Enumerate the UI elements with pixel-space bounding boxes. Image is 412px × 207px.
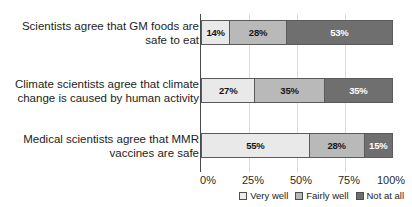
bar-row-gm-foods: 14% 28% 53% bbox=[201, 20, 393, 45]
bar-segment-very-well: 27% bbox=[201, 78, 254, 103]
legend-item-very-well: Very well bbox=[239, 190, 288, 201]
legend-label: Not at all bbox=[367, 190, 405, 201]
category-label-mmr: Medical scientists agree that MMR vaccin… bbox=[3, 133, 199, 160]
plot-area: 14% 28% 53% 27% 35% 35% 55% 28% 15% bbox=[200, 14, 393, 172]
bar-segment-not-at-all: 15% bbox=[364, 133, 393, 158]
legend-item-fairly-well: Fairly well bbox=[295, 190, 348, 201]
x-tick-100: 100% bbox=[377, 174, 405, 186]
legend-label: Very well bbox=[250, 190, 288, 201]
x-tick-75: 75% bbox=[338, 174, 360, 186]
x-axis: 0% 25% 50% 75% 100% bbox=[200, 174, 393, 188]
legend-swatch-icon bbox=[239, 192, 247, 200]
bar-row-climate: 27% 35% 35% bbox=[201, 78, 393, 103]
legend-label: Fairly well bbox=[306, 190, 348, 201]
bar-segment-fairly-well: 35% bbox=[254, 78, 323, 103]
bar-segment-very-well: 14% bbox=[201, 20, 229, 45]
bar-segment-very-well: 55% bbox=[201, 133, 309, 158]
chart-legend: Very well Fairly well Not at all bbox=[0, 190, 404, 201]
stacked-bar-chart: Scientists agree that GM foods are safe … bbox=[0, 0, 412, 207]
x-tick-50: 50% bbox=[290, 174, 312, 186]
bar-segment-not-at-all: 53% bbox=[286, 20, 393, 45]
bar-segment-fairly-well: 28% bbox=[309, 133, 364, 158]
legend-swatch-icon bbox=[295, 192, 303, 200]
legend-swatch-icon bbox=[356, 192, 364, 200]
bar-row-mmr: 55% 28% 15% bbox=[201, 133, 393, 158]
bar-segment-fairly-well: 28% bbox=[229, 20, 286, 45]
category-label-gm-foods: Scientists agree that GM foods are safe … bbox=[3, 20, 199, 47]
category-label-climate: Climate scientists agree that climate ch… bbox=[3, 78, 199, 105]
x-tick-0: 0% bbox=[200, 174, 216, 186]
x-tick-25: 25% bbox=[242, 174, 264, 186]
bar-segment-not-at-all: 35% bbox=[324, 78, 393, 103]
legend-item-not-at-all: Not at all bbox=[356, 190, 405, 201]
